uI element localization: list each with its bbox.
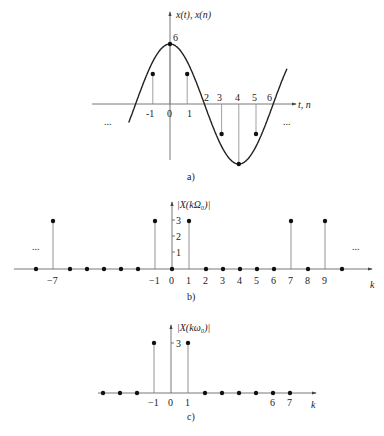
panel-a-tick-4: 4 [235, 92, 240, 103]
panel-b-spectral-line-point [306, 267, 310, 271]
figure: x(t), x(n) t, n 6 -1 0 1 2 3 4 5 6 ... .… [0, 0, 384, 436]
panel-b-x-label: k [370, 279, 375, 290]
panel-b-spectral-line-point [238, 267, 242, 271]
panel-c-k-tick-label: 6 [270, 397, 275, 408]
panel-a-sample-point [168, 42, 172, 46]
panel-b-k-tick-label: 4 [237, 275, 242, 286]
panel-b-spectral-line-point [323, 219, 327, 223]
panel-b-ellipsis-left: ... [32, 241, 40, 252]
panel-b-k-tick-label: 8 [305, 275, 310, 286]
panel-b-spectrum-plot: 3 2 1 |X(kΩ₀)| k −7−10123456789 ... ... … [14, 199, 375, 303]
panel-b-spectral-line-point [34, 267, 38, 271]
panel-a-sample-point [185, 72, 189, 76]
panel-c-spectral-line-point [101, 391, 105, 395]
panel-b-spectral-line-point [221, 267, 225, 271]
panel-c-spectral-line-point [186, 341, 190, 345]
panel-c-caption: c) [187, 411, 195, 423]
panel-b-ytick-2: 2 [176, 231, 181, 242]
panel-b-y-label: |X(kΩ₀)| [177, 199, 210, 211]
panel-c-y-label: |X(kω₀)| [177, 322, 210, 334]
panel-a-tick-0: 0 [167, 108, 172, 119]
panel-a-x-label: t, n [298, 99, 311, 110]
panel-b-spectral-line-point [170, 267, 174, 271]
panel-b-spectral-line-point [51, 219, 55, 223]
panel-b-caption: b) [187, 291, 195, 303]
panel-c-spectral-line-point [220, 391, 224, 395]
panel-b-spectral-line-point [119, 267, 123, 271]
panel-b-k-tick-label: −7 [47, 275, 58, 286]
panel-b-k-tick-label: 6 [271, 275, 276, 286]
panel-a-tick-2: 2 [204, 92, 209, 103]
panel-b-ellipsis-right: ... [352, 241, 360, 252]
panel-b-spectral-line-point [136, 267, 140, 271]
panel-c-spectral-line-point [152, 341, 156, 345]
panel-b-ytick-1: 1 [176, 247, 181, 258]
panel-b-spectral-line-point [85, 267, 89, 271]
panel-c-k-tick-label: 0 [168, 397, 173, 408]
panel-b-ytick-3: 3 [176, 215, 181, 226]
panel-c-spectral-line-point [271, 391, 275, 395]
panel-b-k-tick-label: 1 [186, 275, 191, 286]
panel-b-spectral-line-point [187, 219, 191, 223]
panel-a-sample-point [151, 72, 155, 76]
panel-a-ellipsis-right: ... [283, 116, 291, 127]
panel-c-k-tick-label: 1 [185, 397, 190, 408]
panel-b-k-tick-label: 2 [203, 275, 208, 286]
panel-c-spectral-line-point [288, 391, 292, 395]
panel-a-sample-point [219, 132, 223, 136]
panel-c-k-tick-label: 7 [287, 397, 292, 408]
panel-b-k-tick-label: −1 [149, 275, 160, 286]
panel-b-k-tick-label: 5 [254, 275, 259, 286]
panel-b-spectral-line-point [204, 267, 208, 271]
panel-c-spectral-line-point [118, 391, 122, 395]
panel-a-signal-plot: x(t), x(n) t, n 6 -1 0 1 2 3 4 5 6 ... .… [92, 9, 311, 183]
panel-a-tick-6: 6 [267, 92, 272, 103]
panel-b-spectral-line-point [68, 267, 72, 271]
panel-a-tick-5: 5 [252, 92, 257, 103]
panel-a-peak-label: 6 [173, 32, 178, 43]
panel-b-spectral-line-point [289, 219, 293, 223]
panel-c-spectral-line-point [237, 391, 241, 395]
panel-c-ytick-3: 3 [176, 338, 181, 349]
panel-a-tick--1: -1 [146, 108, 154, 119]
panel-a-ellipsis-left: ... [104, 116, 112, 127]
panel-a-tick-1: 1 [187, 108, 192, 119]
panel-b-k-tick-label: 9 [322, 275, 327, 286]
panel-a-y-label: x(t), x(n) [175, 9, 212, 21]
panel-a-sample-point [254, 132, 258, 136]
panel-b-k-tick-label: 7 [288, 275, 293, 286]
panel-b-k-tick-label: 0 [169, 275, 174, 286]
panel-c-k-tick-label: −1 [148, 397, 159, 408]
panel-a-sample-point [237, 162, 241, 166]
panel-c-spectral-line-point [135, 391, 139, 395]
panel-c-spectral-line-point [203, 391, 207, 395]
panel-b-spectral-line-point [255, 267, 259, 271]
panel-c-spectrum-plot: 3 |X(kω₀)| k −10167 c) [98, 322, 316, 423]
panel-b-spectral-line-point [153, 219, 157, 223]
panel-b-k-tick-label: 3 [220, 275, 225, 286]
panel-c-x-label: k [311, 399, 316, 410]
panel-a-tick-3: 3 [217, 92, 222, 103]
panel-c-spectral-line-point [254, 391, 258, 395]
panel-b-spectral-line-point [102, 267, 106, 271]
panel-b-spectral-line-point [340, 267, 344, 271]
panel-a-caption: a) [187, 171, 195, 183]
panel-b-spectral-line-point [272, 267, 276, 271]
